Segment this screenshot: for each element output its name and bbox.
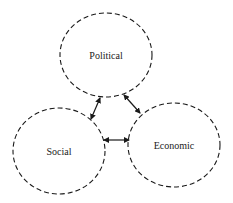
- arrow-political-social: [91, 98, 100, 119]
- political-label: Political: [89, 50, 122, 61]
- diagram-canvas: [0, 0, 233, 203]
- social-label: Social: [47, 146, 72, 157]
- arrow-political-economic: [124, 95, 140, 113]
- economic-label: Economic: [154, 140, 195, 151]
